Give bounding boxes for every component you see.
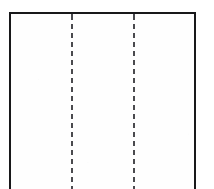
panel-edge-left — [9, 12, 11, 189]
panel-edge-top — [9, 12, 196, 14]
fold-line-left — [71, 15, 73, 189]
fold-tick-right — [133, 14, 135, 17]
panel-left — [11, 14, 73, 189]
panel-fold-drawing — [0, 0, 214, 189]
fold-tick-left — [71, 14, 73, 17]
panel-edge-right — [194, 12, 196, 189]
figure-canvas — [0, 0, 214, 189]
panel-right — [135, 14, 194, 189]
panel-center — [73, 14, 135, 189]
fold-line-right — [133, 15, 135, 189]
